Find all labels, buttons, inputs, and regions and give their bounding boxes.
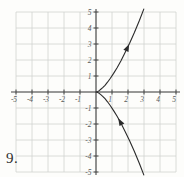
y-tick-label: -2	[85, 120, 91, 129]
y-tick-label: 4	[88, 24, 92, 33]
y-tick-label: 2	[88, 56, 92, 65]
y-tick-label: 5	[88, 8, 92, 17]
y-tick-label: -3	[85, 136, 91, 145]
x-tick-label: 5	[172, 95, 176, 104]
y-tick-label: 3	[87, 40, 92, 49]
x-tick-label: -4	[27, 95, 33, 104]
arrowhead	[118, 118, 124, 126]
y-tick-label: -4	[85, 152, 91, 161]
coordinate-plane: -5-4-3-2-112345-5-4-3-2-112345	[0, 0, 184, 177]
y-tick-label: -1	[85, 104, 91, 113]
y-tick-label: -5	[85, 168, 91, 177]
x-tick-label: 4	[156, 95, 160, 104]
x-tick-label: -3	[43, 95, 49, 104]
x-tick-label: 2	[124, 95, 128, 104]
y-tick-label: 1	[88, 72, 92, 81]
arrowhead	[123, 44, 129, 52]
worksheet-page: 9. -5-4-3-2-112345-5-4-3-2-112345	[0, 0, 184, 177]
x-tick-label: -5	[11, 95, 17, 104]
x-tick-label: -1	[75, 95, 81, 104]
problem-number: 9.	[6, 150, 18, 167]
x-tick-label: 3	[139, 95, 144, 104]
graph-figure: -5-4-3-2-112345-5-4-3-2-112345	[0, 0, 184, 177]
x-tick-label: -2	[59, 95, 65, 104]
